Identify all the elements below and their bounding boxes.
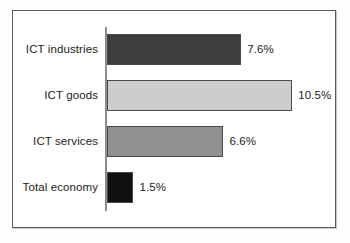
category-label-total-economy: Total economy xyxy=(13,165,98,209)
value-label-ict-goods: 10.5% xyxy=(298,73,331,117)
bar-total-economy xyxy=(107,172,133,203)
value-label-ict-industries: 7.6% xyxy=(247,27,274,71)
bar-ict-goods xyxy=(107,80,292,111)
chart-root: ICT industries 7.6% ICT goods 10.5% ICT … xyxy=(0,0,350,243)
bar-row: ICT services 6.6% xyxy=(13,119,335,163)
category-label-ict-services: ICT services xyxy=(13,119,98,163)
chart-frame: ICT industries 7.6% ICT goods 10.5% ICT … xyxy=(12,10,336,228)
value-label-total-economy: 1.5% xyxy=(139,165,166,209)
plot-area: ICT industries 7.6% ICT goods 10.5% ICT … xyxy=(13,11,335,227)
bar-ict-services xyxy=(107,126,223,157)
category-label-ict-industries: ICT industries xyxy=(13,27,98,71)
value-label-ict-services: 6.6% xyxy=(229,119,256,163)
bar-row: ICT goods 10.5% xyxy=(13,73,335,117)
bar-row: ICT industries 7.6% xyxy=(13,27,335,71)
bar-ict-industries xyxy=(107,34,241,65)
category-label-ict-goods: ICT goods xyxy=(13,73,98,117)
bar-row: Total economy 1.5% xyxy=(13,165,335,209)
